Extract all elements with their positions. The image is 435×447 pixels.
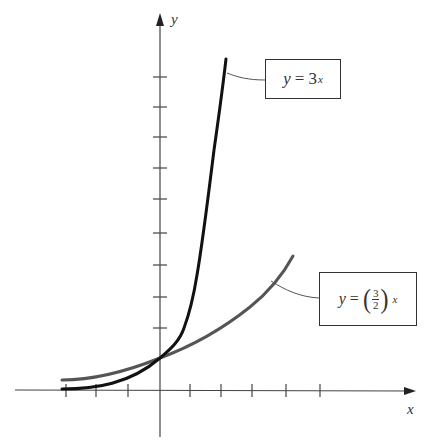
leader-line-curve2 — [271, 281, 319, 298]
fraction-denominator: 2 — [373, 300, 379, 311]
y-axis-label: y — [169, 11, 178, 27]
label-box-three-halves-pow-x: y = ( 3 2 )x — [319, 272, 417, 326]
graph-canvas: y x — [0, 0, 435, 447]
left-paren: ( — [363, 286, 371, 312]
label-exponent: x — [392, 293, 397, 305]
label-y: y — [339, 290, 346, 308]
x-axis-arrow-icon — [404, 387, 416, 395]
y-axis — [153, 13, 167, 437]
label-base: 3 — [308, 69, 317, 89]
fraction: 3 2 — [372, 288, 380, 311]
leader-line-curve1 — [227, 73, 265, 80]
label-equals: = — [295, 69, 305, 89]
y-axis-arrow-icon — [156, 13, 164, 26]
label-box-three-pow-x: y = 3x — [265, 59, 341, 99]
right-paren: ) — [380, 286, 388, 312]
x-axis — [15, 384, 416, 397]
label-exponent: x — [318, 73, 323, 85]
label-equals: = — [350, 290, 359, 308]
x-axis-label: x — [406, 401, 414, 417]
curve-three-halves-pow-x — [62, 256, 293, 380]
label-y: y — [283, 69, 291, 89]
fraction-numerator: 3 — [372, 288, 380, 300]
